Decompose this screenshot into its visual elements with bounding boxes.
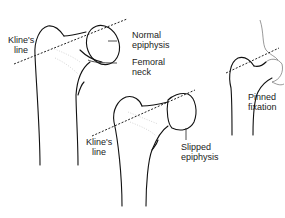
label-femoral-neck: Femoral neck [132, 57, 165, 77]
pinned-femur [226, 20, 284, 135]
klines-line-slipped [92, 90, 195, 136]
label-slipped-epiphysis: Slipped epiphysis [181, 142, 219, 162]
label-klines-line-normal: Kline's line [8, 35, 34, 55]
pin-line [226, 48, 279, 73]
label-normal-epiphysis: Normal epiphysis [132, 30, 170, 50]
label-pinned-fixation: Pinned fixation [248, 92, 277, 112]
label-klines-line-slipped: Kline's line [86, 137, 112, 157]
